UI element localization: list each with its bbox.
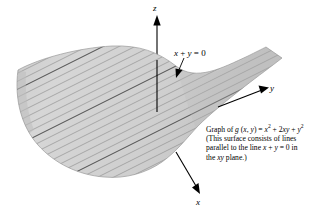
surface-body [0,0,333,214]
x-axis [176,152,200,194]
caption-line-4: the xy plane.) [206,153,333,162]
valley-eq-y: y [188,48,192,58]
valley-eq-plus: + [180,48,185,58]
caption-l3-pre: parallel to the line [206,143,263,152]
caption-line-2: (This surface consists of lines [206,134,333,143]
y-axis-label: y [270,84,274,93]
caption-l1-t3-exp: 2 [301,123,304,129]
caption-line-1: Graph of g (x, y) = x2 + 2xy + y2 [206,125,333,134]
valley-equation-label: x + y = 0 [174,48,206,58]
surface-figure [0,0,333,214]
caption-l3-eq: = 0 in [278,143,298,152]
caption-l4-pre: the [206,153,217,162]
figure-container: z y x x + y = 0 Graph of g (x, y) = x2 +… [0,0,333,214]
valley-eq-x: x [174,48,178,58]
caption-l4-xy: xy [217,153,224,162]
caption-l1-t2: + 2 [271,125,283,134]
x-axis-label: x [196,198,200,207]
z-axis-label: z [153,4,157,13]
valley-eq-rhs: = 0 [194,48,206,58]
caption-line-3: parallel to the line x + y = 0 in [206,143,333,152]
caption-l1-eq: ) = [254,125,265,134]
caption-l4-post: plane.) [224,153,247,162]
caption-l1-pre: Graph of [206,125,235,134]
figure-caption: Graph of g (x, y) = x2 + 2xy + y2 (This … [206,125,333,162]
